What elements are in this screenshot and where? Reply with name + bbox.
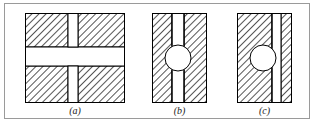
block-c-right	[281, 14, 292, 103]
horizontal-slot-a	[26, 47, 125, 66]
round-hole-b	[165, 45, 191, 71]
diagram-canvas: (a)	[0, 0, 316, 134]
block-a-bottom-left	[26, 66, 69, 103]
figure-label-c: (c)	[237, 105, 292, 116]
round-hole-c	[250, 45, 276, 71]
figure-panel-a	[25, 13, 125, 103]
figure-label-b: (b)	[152, 105, 207, 116]
vertical-slot-a-lower	[68, 66, 78, 103]
figure-panel-b	[152, 13, 207, 103]
figure-c-graphic	[237, 13, 292, 103]
figure-b-graphic	[152, 13, 207, 103]
figure-panel-c	[237, 13, 292, 103]
block-a-top-right	[78, 14, 125, 48]
block-a-top-left	[26, 14, 69, 48]
figure-a-graphic	[25, 13, 125, 103]
figure-label-a: (a)	[25, 105, 125, 116]
block-a-bottom-right	[78, 66, 125, 103]
vertical-slot-a-upper	[68, 14, 78, 48]
